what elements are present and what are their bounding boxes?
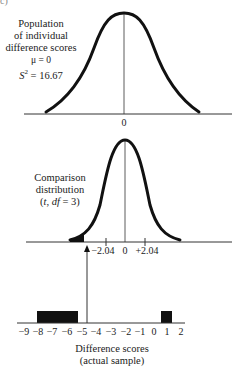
distribution-params: (t, df = 3) [28,196,92,208]
arrow-up-icon [84,245,90,252]
population-label-line2: of individual [2,30,80,42]
bar-right [161,311,172,323]
bottom-xlabel: Difference scores (actual sample) [62,343,162,367]
axis-label: −7 [47,326,58,337]
axis-label: 1 [165,326,170,337]
axis-label: −9 [19,326,30,337]
axis-label: −5 [77,326,88,337]
variance-value: S2 = 16.67 [2,66,80,82]
axis-label: −8 [33,326,44,337]
axis-label: 0 [152,326,157,337]
comparison-distribution-label: Comparison distribution (t, df = 3) [28,172,92,208]
variance-number: = 16.67 [28,70,63,81]
population-label-line1: Population [2,18,80,30]
comparison-label-line2: distribution [28,184,92,196]
top-axis-zero-label: 0 [122,117,127,128]
mu-value: μ = 0 [2,54,80,66]
axis-label: −1 [135,326,146,337]
axis-label: −4 [91,326,102,337]
axis-label: −3 [106,326,117,337]
tick-label-minus-2-04: −2.04 [91,245,114,256]
xlabel-line1: Difference scores [62,343,162,355]
population-label: Population of individual difference scor… [2,18,80,82]
tick-label-plus-2-04: +2.04 [135,245,158,256]
axis-label: 2 [179,326,184,337]
population-label-line3: difference scores [2,42,80,54]
xlabel-line2: (actual sample) [62,355,162,367]
tick-label-zero: 0 [123,245,128,256]
axis-label: −6 [62,326,73,337]
comparison-label-line1: Comparison [28,172,92,184]
bar-left [37,311,78,323]
axis-label: −2 [121,326,132,337]
